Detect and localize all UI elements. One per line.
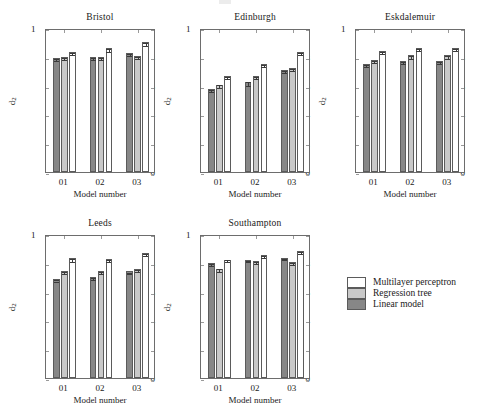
x-tick-mark xyxy=(411,30,412,33)
x-tick-mark xyxy=(293,236,294,239)
x-tick-label: 01 xyxy=(59,383,68,393)
legend-item-linear[interactable]: Linear model xyxy=(347,299,472,310)
x-tick-label: 01 xyxy=(214,177,223,187)
error-bar-cap xyxy=(254,77,259,78)
error-bar-cap xyxy=(409,56,414,57)
legend-label: Multilayer perceptron xyxy=(373,277,456,288)
error-bar-cap xyxy=(401,64,406,65)
y-tick-mark xyxy=(306,116,309,117)
panel-title: Edinburgh xyxy=(200,12,310,23)
error-bar-cap xyxy=(225,77,230,78)
scan-artifact xyxy=(219,0,231,4)
y-axis-title-subscript: 2 xyxy=(320,97,328,101)
x-tick-label: 03 xyxy=(287,383,296,393)
y-axis-title: d2 xyxy=(7,87,20,115)
bar-linear-02 xyxy=(245,82,252,172)
error-bar-cap xyxy=(225,262,230,263)
error-bar-cap xyxy=(298,252,303,253)
y-tick-mark xyxy=(151,145,154,146)
error-bar-cap xyxy=(143,256,148,257)
plot-area xyxy=(45,235,155,379)
panel-title: Leeds xyxy=(45,218,155,229)
y-tick-mark xyxy=(46,88,49,89)
bar-mlp-02 xyxy=(261,255,268,378)
x-tick-label: 03 xyxy=(132,177,141,187)
y-tick-mark xyxy=(461,174,464,175)
error-bar-cap xyxy=(99,272,104,273)
plot-area xyxy=(200,29,310,173)
y-axis-title-text: d xyxy=(7,101,17,106)
y-tick-mark xyxy=(356,59,359,60)
bar-linear-03 xyxy=(281,70,288,172)
y-axis-title-text: d xyxy=(7,307,17,312)
y-tick-mark xyxy=(151,351,154,352)
error-bar-cap xyxy=(143,46,148,47)
y-tick-mark xyxy=(461,88,464,89)
y-tick-mark xyxy=(201,145,204,146)
error-bar-cap xyxy=(225,260,230,261)
y-tick-mark xyxy=(461,59,464,60)
y-tick-label: 1 xyxy=(31,230,36,240)
error-bar-cap xyxy=(99,58,104,59)
y-axis-title-subscript: 2 xyxy=(165,97,173,101)
x-tick-label: 03 xyxy=(287,177,296,187)
bar-mlp-02 xyxy=(106,259,113,378)
bar-regtree-02 xyxy=(98,271,105,378)
y-tick-mark xyxy=(201,322,204,323)
error-bar-cap xyxy=(143,254,148,255)
bar-mlp-03 xyxy=(142,42,149,172)
x-tick-mark xyxy=(219,30,220,33)
error-bar-cap xyxy=(254,262,259,263)
y-tick-mark xyxy=(151,59,154,60)
error-bar-cap xyxy=(261,258,266,259)
error-bar-cap xyxy=(409,59,414,60)
y-tick-mark xyxy=(46,265,49,266)
panel-title: Southampton xyxy=(200,218,310,229)
error-bar-cap xyxy=(62,272,67,273)
error-bar-cap xyxy=(135,59,140,60)
error-bar-cap xyxy=(445,56,450,57)
y-tick-mark xyxy=(306,294,309,295)
error-bar-cap xyxy=(364,67,369,68)
x-axis-title: Model number xyxy=(45,189,155,199)
y-tick-mark xyxy=(356,30,359,31)
error-bar-cap xyxy=(106,262,111,263)
plot-area xyxy=(45,29,155,173)
bar-linear-01 xyxy=(363,64,370,172)
error-bar-cap xyxy=(290,263,295,264)
bar-mlp-03 xyxy=(297,52,304,172)
y-tick-mark xyxy=(46,322,49,323)
x-tick-mark xyxy=(64,30,65,33)
bar-mlp-01 xyxy=(69,258,76,378)
y-axis-title-subscript: 2 xyxy=(165,303,173,307)
y-tick-mark xyxy=(201,174,204,175)
error-bar-cap xyxy=(127,56,132,57)
x-axis-title: Model number xyxy=(200,395,310,405)
bar-regtree-01 xyxy=(61,271,68,378)
bar-mlp-02 xyxy=(416,48,423,172)
legend-item-regtree[interactable]: Regression tree xyxy=(347,288,472,299)
error-bar-cap xyxy=(209,266,214,267)
x-tick-mark xyxy=(101,30,102,33)
error-bar-cap xyxy=(70,262,75,263)
y-axis-title: d2 xyxy=(162,293,175,321)
error-bar-cap xyxy=(106,260,111,261)
bar-regtree-02 xyxy=(408,55,415,172)
x-axis-title: Model number xyxy=(200,189,310,199)
legend-item-mlp[interactable]: Multilayer perceptron xyxy=(347,277,472,288)
error-bar-cap xyxy=(217,272,222,273)
error-bar-cap xyxy=(143,43,148,44)
x-tick-label: 02 xyxy=(251,383,260,393)
x-tick-mark xyxy=(138,30,139,33)
error-bar-cap xyxy=(261,256,266,257)
error-bar-cap xyxy=(99,60,104,61)
error-bar-cap xyxy=(127,274,132,275)
x-axis-title: Model number xyxy=(45,395,155,405)
y-tick-mark xyxy=(46,145,49,146)
y-tick-mark xyxy=(201,116,204,117)
bar-mlp-03 xyxy=(142,253,149,378)
y-tick-mark xyxy=(201,294,204,295)
bar-mlp-01 xyxy=(224,76,231,172)
bar-mlp-01 xyxy=(69,52,76,172)
error-bar-cap xyxy=(380,54,385,55)
